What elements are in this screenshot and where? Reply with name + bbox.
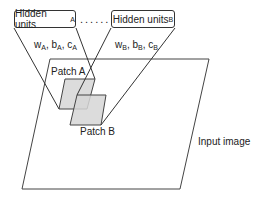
params-b-label: wB, bB, cB: [115, 40, 158, 51]
patch-a-label: Patch A: [51, 67, 85, 77]
patch-b-label: Patch B: [80, 127, 115, 137]
input-image-label: Input image: [198, 137, 250, 147]
hidden-units-b-subscript: B: [168, 16, 173, 23]
diagram-canvas: [0, 0, 254, 200]
hidden-units-b-box: Hidden unitsB: [111, 10, 175, 28]
hidden-units-a-box: Hidden unitsA: [14, 10, 76, 28]
hidden-units-a-subscript: A: [70, 16, 75, 23]
input-image-plane: [22, 59, 209, 189]
hidden-units-a-label: Hidden units: [15, 8, 70, 30]
hidden-units-b-label: Hidden units: [113, 14, 169, 25]
params-a-label: wA, bA, cA: [34, 40, 77, 51]
ellipsis: ......: [80, 14, 110, 25]
